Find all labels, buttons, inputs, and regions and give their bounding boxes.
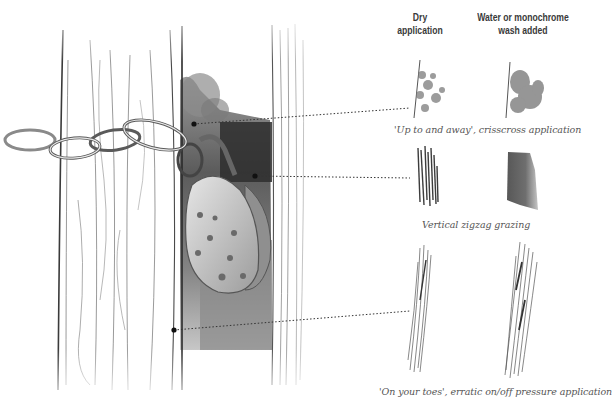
- caption-zigzag: Vertical zigzag grazing: [422, 219, 530, 230]
- header-dry-line-1: Dry: [391, 11, 448, 24]
- caption-pressure: 'On your toes', erratic on/off pressure …: [379, 386, 612, 397]
- swatch-wash-pressure: [505, 242, 537, 378]
- header-wash-line-1: Water or monochrome: [474, 11, 572, 24]
- header-dry-line-2: application: [391, 24, 448, 37]
- callout-dot-3: [171, 327, 176, 332]
- swatch-dry-pressure: [408, 245, 431, 372]
- header-wash-line-2: wash added: [474, 24, 572, 37]
- swatch-dry-zigzag: [418, 146, 438, 206]
- header-wash-added: Water or monochrome wash added: [474, 11, 572, 37]
- swatch-wash-crisscross: [506, 62, 544, 118]
- callout-dot-1: [191, 121, 196, 126]
- swatch-wash-zigzag: [507, 152, 538, 210]
- callout-dot-2: [252, 173, 257, 178]
- header-dry-application: Dry application: [391, 11, 448, 37]
- caption-crisscross: 'Up to and away', crisscross application: [394, 124, 581, 135]
- swatch-dry-crisscross: [414, 60, 445, 118]
